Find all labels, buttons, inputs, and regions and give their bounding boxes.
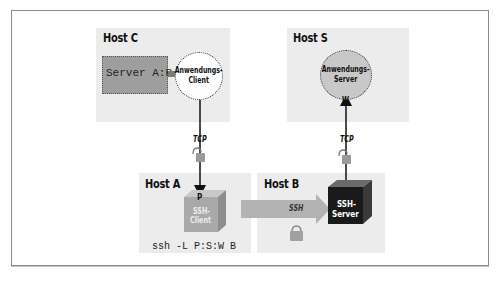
ssh-tunnel-arrow [241, 194, 330, 224]
client-label-line2: Client [175, 76, 223, 86]
open-padlock-icon [193, 148, 205, 162]
ssh-tunnel-label: SSH [289, 204, 303, 213]
application-server-circle: Anwendungs-Server [320, 50, 372, 100]
tcp-label-right: TCP [340, 135, 354, 144]
open-padlock-icon [339, 150, 351, 164]
ssh-client-label-line1: SSH- [193, 207, 210, 216]
server-label-line1: Anwendungs- [322, 65, 370, 75]
diagram-graphics [0, 0, 500, 281]
ssh-server-label-line1: SSH- [337, 199, 356, 209]
client-label-line1: Anwendungs- [175, 66, 223, 76]
ssh-client-label-line2: Client [190, 216, 211, 225]
port-p-label: P [197, 192, 202, 202]
closed-padlock-icon [290, 226, 303, 241]
server-label-line2: Server [322, 75, 370, 85]
ssh-server-label-line2: Server [332, 209, 359, 219]
port-w-label: W [342, 96, 349, 105]
tcp-label-left: TCP [193, 135, 207, 144]
application-client-circle: Anwendungs-Client [175, 52, 223, 100]
